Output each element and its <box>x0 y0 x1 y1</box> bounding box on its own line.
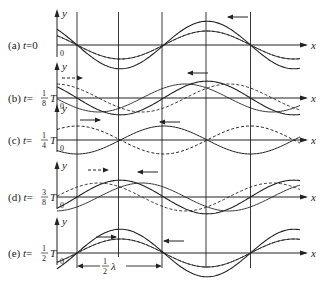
half-wavelength-annotation: 12λ <box>77 257 162 277</box>
origin-label: 0 <box>60 49 64 58</box>
y-axis-label: y <box>61 102 67 114</box>
arrow-left-icon <box>227 15 233 20</box>
svg-text:1: 1 <box>103 257 107 266</box>
svg-text:λ: λ <box>110 260 116 272</box>
x-axis-label: x <box>310 39 316 51</box>
y-axis-label: y <box>61 215 67 227</box>
time-label: (a) t=0 <box>8 39 38 52</box>
arrow-right-icon <box>95 118 101 123</box>
x-axis-arrow-icon <box>300 138 308 143</box>
time-label: (b) t= <box>8 92 33 105</box>
period-symbol: T <box>50 92 57 104</box>
fraction-numerator: 3 <box>42 188 46 197</box>
period-symbol: T <box>50 247 57 259</box>
y-axis-arrow-icon <box>55 161 60 169</box>
fraction-numerator: 1 <box>42 89 46 98</box>
arrow-left-icon <box>77 264 83 269</box>
y-axis-label: y <box>61 159 67 171</box>
arrow-left-icon <box>187 71 193 76</box>
y-axis-label: y <box>61 7 67 19</box>
y-axis-label: y <box>61 60 67 72</box>
period-symbol: T <box>50 134 57 146</box>
fraction-denominator: 8 <box>42 198 46 207</box>
arrow-right-icon <box>103 168 109 173</box>
fraction-numerator: 1 <box>42 244 46 253</box>
arrow-left-icon <box>137 170 143 175</box>
time-label: (c) t= <box>8 134 32 147</box>
x-axis-arrow-icon <box>300 251 308 256</box>
arrow-left-icon <box>163 239 169 244</box>
y-axis-arrow-icon <box>55 62 60 70</box>
time-label: (d) t= <box>8 191 33 204</box>
period-symbol: T <box>50 191 57 203</box>
y-axis-arrow-icon <box>55 217 60 225</box>
fraction-denominator: 8 <box>42 99 46 108</box>
x-axis-arrow-icon <box>300 96 308 101</box>
fraction-numerator: 1 <box>42 131 46 140</box>
x-axis-arrow-icon <box>300 195 308 200</box>
x-axis-label: x <box>310 191 316 203</box>
x-axis-label: x <box>310 134 316 146</box>
x-axis-arrow-icon <box>300 43 308 48</box>
standing-wave-diagram: yx0(a) t=0yx0(b) t=18Tyx0(c) t=14Tyx0(d)… <box>0 0 328 290</box>
x-axis-label: x <box>310 92 316 104</box>
y-axis-arrow-icon <box>55 104 60 112</box>
x-axis-label: x <box>310 247 316 259</box>
y-axis-arrow-icon <box>55 9 60 17</box>
time-label: (e) t= <box>8 247 32 260</box>
fraction-denominator: 2 <box>42 254 46 263</box>
fraction-denominator: 4 <box>42 141 46 150</box>
arrow-right-icon <box>77 76 83 81</box>
arrow-right-icon <box>156 264 162 269</box>
svg-text:2: 2 <box>103 267 107 276</box>
